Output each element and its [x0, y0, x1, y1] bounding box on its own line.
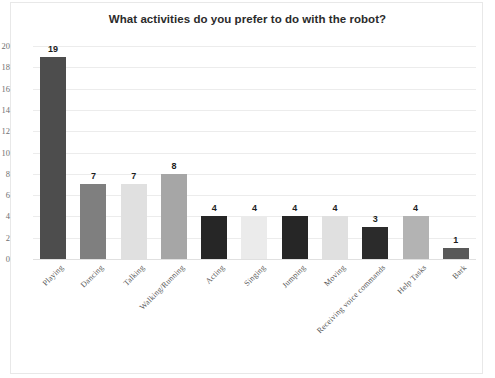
bar-slot: 4 — [194, 46, 234, 259]
bar-value-label: 4 — [212, 203, 217, 213]
bar[interactable] — [403, 216, 429, 259]
bar[interactable] — [201, 216, 227, 259]
bar[interactable] — [443, 248, 469, 259]
bar-value-label: 7 — [91, 171, 96, 181]
bar[interactable] — [161, 174, 187, 259]
bar[interactable] — [241, 216, 267, 259]
bar-value-label: 3 — [373, 214, 378, 224]
bars-layer: 197784444341 — [33, 46, 476, 259]
bar-slot: 4 — [275, 46, 315, 259]
bar-slot: 4 — [234, 46, 274, 259]
bar-slot: 7 — [114, 46, 154, 259]
bar[interactable] — [121, 184, 147, 259]
bar-value-label: 19 — [48, 44, 58, 54]
y-axis-tick-label: 18 — [0, 62, 10, 72]
bar[interactable] — [40, 57, 66, 259]
bar-value-label: 4 — [252, 203, 257, 213]
bar-value-label: 4 — [292, 203, 297, 213]
y-axis-tick-label: 16 — [0, 84, 10, 94]
chart-title: What activities do you prefer to do with… — [0, 13, 495, 25]
bar[interactable] — [322, 216, 348, 259]
bar-slot: 7 — [73, 46, 113, 259]
y-axis-tick-label: 6 — [0, 190, 10, 200]
bar-slot: 19 — [33, 46, 73, 259]
y-axis-tick-label: 8 — [0, 169, 10, 179]
bar-slot: 3 — [355, 46, 395, 259]
bar-slot: 1 — [436, 46, 476, 259]
gridline — [33, 259, 476, 260]
bar[interactable] — [282, 216, 308, 259]
y-axis-tick-label: 14 — [0, 105, 10, 115]
y-axis-tick-label: 0 — [0, 254, 10, 264]
y-axis-tick-label: 2 — [0, 233, 10, 243]
y-axis-tick-label: 12 — [0, 126, 10, 136]
bar-value-label: 4 — [333, 203, 338, 213]
bar[interactable] — [362, 227, 388, 259]
bar-slot: 4 — [315, 46, 355, 259]
y-axis-tick-label: 4 — [0, 211, 10, 221]
bar-slot: 8 — [154, 46, 194, 259]
bar-chart-figure: What activities do you prefer to do with… — [0, 0, 495, 378]
bar-value-label: 7 — [131, 171, 136, 181]
bar-slot: 4 — [395, 46, 435, 259]
y-axis-tick-label: 20 — [0, 41, 10, 51]
bar-value-label: 4 — [413, 203, 418, 213]
bar[interactable] — [80, 184, 106, 259]
y-axis-tick-label: 10 — [0, 148, 10, 158]
bar-value-label: 1 — [453, 235, 458, 245]
bar-value-label: 8 — [171, 161, 176, 171]
